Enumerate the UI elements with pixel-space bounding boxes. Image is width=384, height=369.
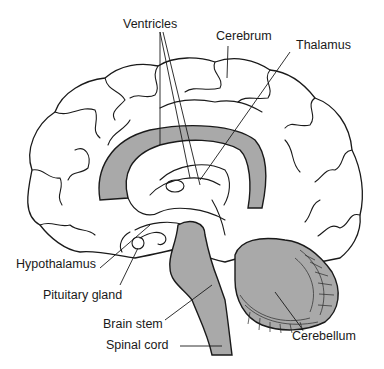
label-pituitary-gland: Pituitary gland (43, 289, 122, 302)
label-thalamus: Thalamus (296, 39, 351, 52)
brain-diagram: Ventricles Cerebrum Thalamus Hypothalamu… (0, 0, 384, 369)
label-hypothalamus: Hypothalamus (16, 258, 96, 271)
label-brain-stem: Brain stem (103, 318, 163, 331)
brain-illustration (0, 0, 384, 369)
label-ventricles: Ventricles (123, 18, 177, 31)
label-cerebrum: Cerebrum (216, 30, 272, 43)
label-cerebellum: Cerebellum (292, 330, 356, 343)
label-spinal-cord: Spinal cord (106, 339, 169, 352)
